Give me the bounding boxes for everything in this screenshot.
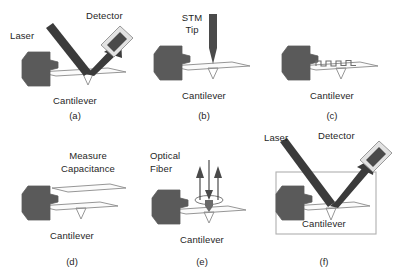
stm-tip-label-line2: Tip — [185, 24, 198, 35]
panel-f-diagram — [258, 130, 406, 278]
panel-e: Optical Fiber Cantilever (e) — [140, 138, 260, 278]
cantilever-label: Cantilever — [53, 95, 97, 106]
panel-d: Measure Capacitance Cantilever (d) — [0, 138, 140, 278]
fiber-arrow-up-right-icon — [214, 166, 222, 200]
cantilever-chip — [154, 46, 190, 80]
cantilever-tip — [204, 212, 214, 223]
panel-d-tag: (d) — [66, 256, 78, 267]
cantilever-label: Cantilever — [182, 90, 226, 101]
cantilever-label: Cantilever — [50, 230, 94, 241]
laser-label: Laser — [264, 132, 288, 143]
cantilever-label: Cantilever — [302, 218, 346, 229]
cantilever-detection-figure: Laser Detector Cantilever (a) STM Tip Ca… — [0, 0, 406, 278]
cantilever-chip — [276, 186, 312, 220]
panel-b-tag: (b) — [198, 110, 210, 121]
detector-label: Detector — [86, 10, 123, 21]
capacitor-plate — [52, 184, 126, 192]
panel-b: STM Tip Cantilever (b) — [140, 0, 268, 138]
cantilever-chip — [282, 46, 318, 80]
panel-e-tag: (e) — [196, 256, 208, 267]
optical-fiber-label-line1: Optical — [150, 150, 180, 161]
panel-f-tag: (f) — [320, 256, 329, 267]
cantilever-tip — [336, 68, 346, 79]
fiber-arrow-up-left-icon — [196, 166, 204, 200]
laser-label: Laser — [10, 30, 34, 41]
measure-label-line1: Measure — [69, 150, 107, 161]
stm-tip-icon — [209, 14, 217, 64]
panel-f: Laser Detector Cantilever (f) — [258, 130, 406, 278]
panel-c-tag: (c) — [326, 110, 337, 121]
cantilever-label: Cantilever — [180, 234, 224, 245]
detector-label: Detector — [318, 130, 355, 141]
cantilever-label: Cantilever — [310, 90, 354, 101]
measure-label-line2: Capacitance — [61, 163, 115, 174]
cantilever-tip — [76, 208, 86, 219]
panel-c: Cantilever (c) — [268, 0, 406, 138]
fiber-arrow-down-icon — [205, 160, 213, 200]
stm-tip-label-line1: STM — [182, 12, 202, 23]
cantilever-chip — [22, 52, 58, 86]
cantilever-chip — [152, 190, 188, 224]
cantilever-tip — [208, 68, 218, 79]
cantilever-chip — [22, 186, 58, 220]
panel-a-tag: (a) — [69, 110, 81, 121]
optical-fiber-label-line2: Fiber — [150, 163, 172, 174]
panel-a: Laser Detector Cantilever (a) — [0, 0, 140, 138]
cantilever-tip — [83, 74, 93, 85]
